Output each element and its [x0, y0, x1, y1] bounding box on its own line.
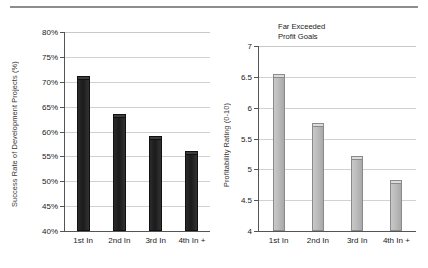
y-axis-tick: [254, 139, 259, 140]
x-axis-tick-label: 2nd In: [108, 236, 130, 245]
bar-top-cap: [351, 156, 363, 160]
y-axis-tick-label: 70%: [42, 77, 58, 86]
x-axis-tick-label: 4th In +: [178, 236, 205, 245]
y-axis-tick: [60, 206, 65, 207]
bar-top-cap: [273, 74, 285, 78]
y-axis-tick: [60, 32, 65, 33]
bar-1st-in: [77, 79, 90, 231]
y-axis-tick: [60, 181, 65, 182]
bar-body: [185, 154, 198, 231]
bar-4th-in: [185, 154, 198, 231]
bar-body: [273, 77, 285, 231]
bar-top-cap: [113, 114, 126, 118]
x-axis-tick-label: 1st In: [73, 236, 93, 245]
bar-top-cap: [149, 136, 162, 140]
y-axis-tick-label: 6: [248, 103, 252, 112]
bar-1st-in: [273, 77, 285, 231]
y-axis-tick: [254, 46, 259, 47]
gridline: [65, 32, 210, 33]
bar-body: [390, 183, 402, 231]
bar-body: [149, 139, 162, 231]
plot-area-left: 40%45%50%55%60%65%70%75%80%1st In2nd In3…: [64, 32, 210, 232]
y-axis-tick-label: 40%: [42, 227, 58, 236]
y-axis-tick-label: 6.5: [241, 72, 252, 81]
y-axis-tick-label: 50%: [42, 177, 58, 186]
y-axis-tick-label: 80%: [42, 28, 58, 37]
y-axis-tick-label: 45%: [42, 202, 58, 211]
plot-area-right: 44.555.566.571st In2nd In3rd In4th In +: [258, 46, 416, 232]
y-axis-tick: [254, 231, 259, 232]
y-axis-title-right: Profitability Rating (0-10): [222, 50, 231, 240]
gridline: [65, 57, 210, 58]
x-axis-tick-label: 1st In: [269, 236, 289, 245]
top-divider-rule: [10, 6, 418, 8]
y-axis-tick-label: 60%: [42, 127, 58, 136]
y-axis-tick-label: 55%: [42, 152, 58, 161]
y-axis-tick-label: 75%: [42, 52, 58, 61]
bar-body: [351, 159, 363, 231]
bar-top-cap: [77, 76, 90, 80]
annotation-far-exceeded: Far Exceeded Profit Goals: [278, 22, 325, 41]
bar-top-cap: [390, 180, 402, 184]
bar-top-cap: [312, 123, 324, 127]
chart-profitability: Profitability Rating (0-10) 44.555.566.5…: [216, 10, 426, 262]
gridline: [259, 46, 416, 47]
y-axis-tick-label: 7: [248, 42, 252, 51]
y-axis-tick-label: 65%: [42, 102, 58, 111]
y-axis-tick: [60, 57, 65, 58]
y-axis-title-left: Success Rate of Development Projects (%): [10, 36, 19, 232]
y-axis-tick: [254, 169, 259, 170]
y-axis-tick-label: 4.5: [241, 196, 252, 205]
bar-body: [77, 79, 90, 231]
y-axis-tick: [254, 108, 259, 109]
y-axis-tick: [60, 231, 65, 232]
bar-3rd-in: [351, 159, 363, 231]
y-axis-tick-label: 4: [248, 227, 252, 236]
bar-3rd-in: [149, 139, 162, 231]
annotation-far-exceeded-line2: Profit Goals: [278, 32, 325, 42]
bar-2nd-in: [113, 117, 126, 231]
x-axis-tick-label: 2nd In: [307, 236, 329, 245]
x-axis-tick-label: 3rd In: [347, 236, 367, 245]
figure-container: Success Rate of Development Projects (%)…: [0, 10, 428, 262]
y-axis-tick-label: 5.5: [241, 134, 252, 143]
annotation-far-exceeded-line1: Far Exceeded: [278, 22, 325, 32]
x-axis-tick-label: 4th In +: [383, 236, 410, 245]
bar-body: [113, 117, 126, 231]
chart-success-rate: Success Rate of Development Projects (%)…: [8, 10, 214, 262]
y-axis-tick: [254, 77, 259, 78]
y-axis-tick: [254, 200, 259, 201]
bar-2nd-in: [312, 126, 324, 231]
x-axis-tick-label: 3rd In: [145, 236, 165, 245]
y-axis-tick: [60, 82, 65, 83]
bar-body: [312, 126, 324, 231]
y-axis-tick: [60, 156, 65, 157]
bar-4th-in: [390, 183, 402, 231]
y-axis-tick: [60, 107, 65, 108]
y-axis-tick-label: 5: [248, 165, 252, 174]
y-axis-tick: [60, 132, 65, 133]
bar-top-cap: [185, 151, 198, 155]
